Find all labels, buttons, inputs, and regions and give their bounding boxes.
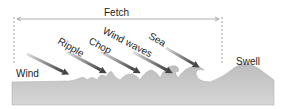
wind-label: Wind bbox=[16, 68, 39, 79]
water-surface bbox=[12, 64, 274, 105]
fetch-label: Fetch bbox=[104, 7, 129, 18]
swell-label: Swell bbox=[236, 56, 260, 67]
wave-development-diagram: Fetch Wind Ripple Chop Wind waves Sea Sw… bbox=[0, 0, 283, 109]
sea-label: Sea bbox=[147, 30, 168, 49]
